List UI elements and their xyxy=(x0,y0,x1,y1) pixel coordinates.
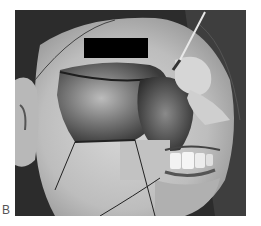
surgical-photo xyxy=(15,10,246,216)
panel-label: B xyxy=(2,204,10,216)
redaction-bar xyxy=(84,38,148,58)
